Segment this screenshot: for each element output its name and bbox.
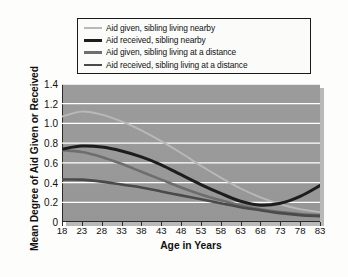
x-axis-tick-label: 18	[57, 225, 68, 236]
legend-item: Aid received, sibling nearby	[84, 34, 305, 46]
x-axis-tick-mark	[280, 222, 281, 226]
legend-item-label: Aid received, sibling nearby	[106, 35, 206, 45]
y-axis-tick-label: 1.4	[44, 79, 58, 90]
y-axis-tick-label: 0.8	[44, 138, 58, 149]
legend-swatch-line-icon	[84, 39, 102, 42]
x-axis-tick-mark	[82, 222, 83, 226]
x-axis-tick-mark	[320, 222, 321, 226]
x-axis-tick-mark	[241, 222, 242, 226]
plot-area: 00.20.40.60.81.01.21.4182328333843485358…	[62, 84, 320, 222]
series-line	[62, 179, 320, 216]
y-axis-tick-label: 1.0	[44, 118, 58, 129]
x-axis-tick-label: 83	[315, 225, 326, 236]
x-axis-tick-label: 23	[77, 225, 88, 236]
x-axis-tick-mark	[122, 222, 123, 226]
legend-item-label: Aid given, sibling living at a distance	[106, 47, 236, 57]
x-axis-tick-mark	[221, 222, 222, 226]
x-axis-tick-label: 48	[176, 225, 187, 236]
x-axis-tick-label: 53	[196, 225, 207, 236]
x-axis-tick-label: 58	[215, 225, 226, 236]
x-axis-tick-mark	[62, 222, 63, 226]
x-axis-tick-mark	[260, 222, 261, 226]
legend-swatch-line-icon	[84, 64, 102, 66]
legend-item: Aid given, sibling living at a distance	[84, 46, 305, 58]
y-axis-tick-label: 0.2	[44, 197, 58, 208]
y-axis-tick-label: 1.2	[44, 98, 58, 109]
y-axis-tick-label: 0.6	[44, 157, 58, 168]
chart-figure: Aid given, sibling living nearbyAid rece…	[0, 0, 348, 277]
x-axis-tick-label: 43	[156, 225, 167, 236]
x-axis-tick-label: 68	[255, 225, 266, 236]
x-axis-title: Age in Years	[62, 240, 320, 251]
x-axis-tick-mark	[181, 222, 182, 226]
legend-item-label: Aid received, sibling living at a distan…	[106, 60, 248, 70]
x-axis-tick-mark	[161, 222, 162, 226]
x-axis-tick-mark	[102, 222, 103, 226]
x-axis-tick-label: 63	[235, 225, 246, 236]
x-axis-tick-label: 73	[275, 225, 286, 236]
x-axis-tick-label: 38	[136, 225, 147, 236]
legend-swatch-line-icon	[84, 51, 102, 53]
y-axis-tick-label: 0.4	[44, 177, 58, 188]
legend-item: Aid given, sibling living nearby	[84, 22, 305, 34]
chart-legend: Aid given, sibling living nearbyAid rece…	[77, 18, 311, 74]
x-axis-tick-label: 33	[116, 225, 127, 236]
y-axis-title: Mean Degree of Aid Given or Received	[29, 64, 40, 254]
x-axis-tick-label: 78	[295, 225, 306, 236]
legend-item: Aid received, sibling living at a distan…	[84, 59, 305, 71]
x-axis-tick-mark	[300, 222, 301, 226]
x-axis-tick-mark	[141, 222, 142, 226]
data-curves	[62, 84, 320, 222]
legend-swatch-line-icon	[84, 27, 102, 29]
x-axis-tick-mark	[201, 222, 202, 226]
x-axis-tick-label: 28	[96, 225, 107, 236]
legend-item-label: Aid given, sibling living nearby	[106, 23, 215, 33]
